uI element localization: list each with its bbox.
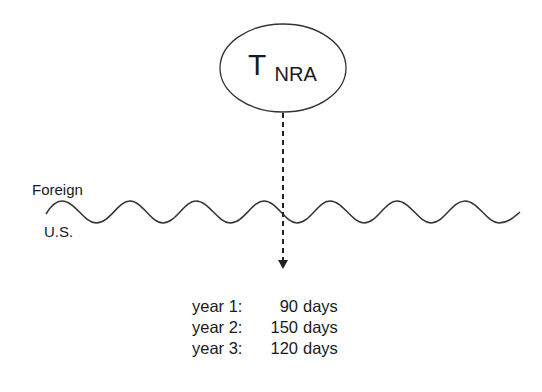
node-symbol: T [248, 48, 266, 81]
stay-year: year 1: [192, 296, 258, 317]
foreign-label: Foreign [32, 182, 83, 197]
us-label: U.S. [44, 224, 73, 239]
stay-list: year 1: 90 days year 2: 150 days year 3:… [192, 296, 338, 359]
stay-unit: days [298, 296, 338, 317]
node-label: T NRA [248, 50, 313, 80]
stay-unit: days [298, 338, 338, 359]
stay-row: year 2: 150 days [192, 317, 338, 338]
stay-value: 150 [258, 317, 298, 338]
stay-row: year 1: 90 days [192, 296, 338, 317]
node-subscript: NRA [275, 63, 317, 85]
arrowhead-icon [278, 260, 288, 269]
stay-year: year 2: [192, 317, 258, 338]
stay-row: year 3: 120 days [192, 338, 338, 359]
stay-value: 120 [258, 338, 298, 359]
stay-value: 90 [258, 296, 298, 317]
stay-unit: days [298, 317, 338, 338]
stay-year: year 3: [192, 338, 258, 359]
